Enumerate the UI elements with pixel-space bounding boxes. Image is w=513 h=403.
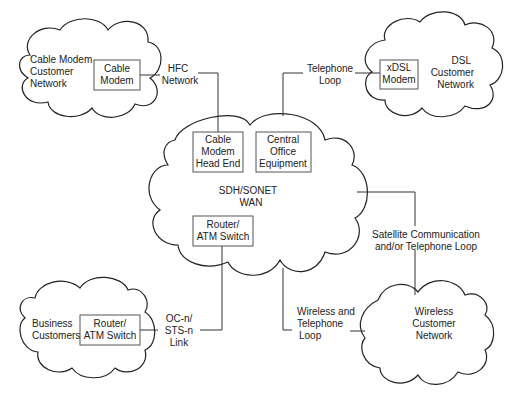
satellite-label: Satellite Communication and/or Telephone… xyxy=(372,229,480,252)
svg-text:Modem: Modem xyxy=(382,74,415,85)
svg-text:Router/: Router/ xyxy=(207,219,240,230)
cable-modem-label: Cable Modem xyxy=(100,63,133,86)
svg-text:Telephone: Telephone xyxy=(307,63,354,74)
svg-text:HFC: HFC xyxy=(168,63,189,74)
network-diagram: Cable Modem Customer Network DSL Custome… xyxy=(0,0,513,403)
svg-text:DSL: DSL xyxy=(452,55,472,66)
svg-text:Wireless and: Wireless and xyxy=(297,306,355,317)
svg-text:STS-n: STS-n xyxy=(165,325,193,336)
svg-text:Office: Office xyxy=(270,146,296,157)
svg-text:Network: Network xyxy=(416,330,454,341)
svg-text:ATM Switch: ATM Switch xyxy=(84,330,137,341)
svg-text:ATM Switch: ATM Switch xyxy=(197,231,250,242)
svg-text:Loop: Loop xyxy=(299,330,322,341)
svg-text:Modem: Modem xyxy=(201,146,234,157)
wireless-label: Wireless Customer Network xyxy=(412,306,456,341)
svg-text:WAN: WAN xyxy=(240,197,263,208)
svg-text:Business: Business xyxy=(32,318,73,329)
telephone-label: Telephone Loop xyxy=(307,63,354,86)
svg-text:SDH/SONET: SDH/SONET xyxy=(219,185,277,196)
svg-text:Loop: Loop xyxy=(319,75,342,86)
svg-text:Router/: Router/ xyxy=(94,318,127,329)
wireless-loop-line xyxy=(283,268,292,330)
svg-text:OC-n/: OC-n/ xyxy=(166,313,193,324)
svg-text:xDSL: xDSL xyxy=(387,62,412,73)
hfc-label: HFC Network xyxy=(162,63,200,86)
svg-text:Cable: Cable xyxy=(205,134,232,145)
svg-text:Network: Network xyxy=(162,75,200,86)
svg-text:Network: Network xyxy=(437,79,475,90)
telephone-link-line xyxy=(283,73,303,116)
svg-text:Modem: Modem xyxy=(100,75,133,86)
svg-text:Cable Modem: Cable Modem xyxy=(30,54,92,65)
svg-text:Satellite Communication: Satellite Communication xyxy=(372,229,480,240)
wireless-loop-label: Wireless and Telephone Loop xyxy=(297,306,355,341)
svg-text:Equipment: Equipment xyxy=(259,158,307,169)
svg-text:and/or Telephone Loop: and/or Telephone Loop xyxy=(375,241,478,252)
svg-text:Wireless: Wireless xyxy=(415,306,453,317)
xdsl-modem-label: xDSL Modem xyxy=(382,62,415,85)
svg-text:Customer: Customer xyxy=(412,318,456,329)
svg-text:Network: Network xyxy=(30,78,68,89)
svg-text:Head End: Head End xyxy=(196,158,240,169)
svg-text:Customer: Customer xyxy=(30,66,74,77)
ocn-label: OC-n/ STS-n Link xyxy=(165,313,193,348)
svg-text:Link: Link xyxy=(170,337,189,348)
svg-text:Telephone: Telephone xyxy=(297,318,344,329)
svg-text:Central: Central xyxy=(267,134,299,145)
svg-text:Customers: Customers xyxy=(32,330,80,341)
svg-text:Customer: Customer xyxy=(431,67,475,78)
svg-text:Cable: Cable xyxy=(104,63,131,74)
